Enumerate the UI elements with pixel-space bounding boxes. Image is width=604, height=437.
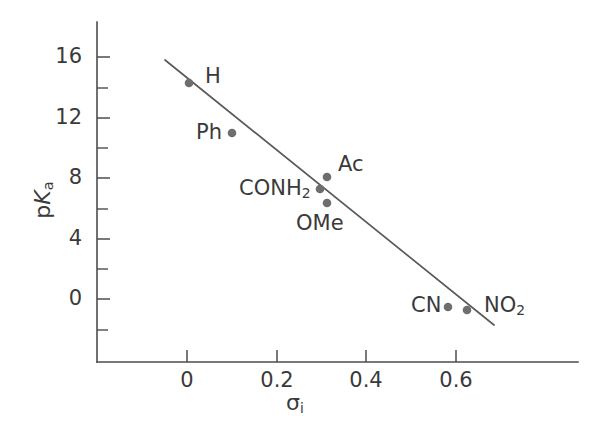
x-axis-title-i: i bbox=[300, 400, 304, 416]
data-point-ac bbox=[323, 173, 332, 182]
x-tick-label-0: 0 bbox=[157, 370, 217, 391]
data-point-h bbox=[185, 79, 194, 88]
data-point-ome bbox=[323, 199, 332, 208]
y-tick-label-0: 0 bbox=[40, 288, 82, 309]
y-axis-title: pKa bbox=[30, 181, 56, 218]
x-tick-label-0.2: 0.2 bbox=[247, 370, 307, 391]
point-label-conh2: CONH2 bbox=[239, 178, 311, 201]
point-label-no2-subscript: 2 bbox=[516, 302, 525, 318]
x-axis-title: σi bbox=[286, 392, 304, 416]
data-point-cn bbox=[444, 303, 453, 312]
point-label-conh2-text: CONH bbox=[239, 176, 302, 200]
point-label-ph: Ph bbox=[196, 122, 222, 143]
point-label-conh2-subscript: 2 bbox=[302, 185, 311, 201]
point-label-ome: OMe bbox=[296, 213, 344, 234]
x-tick-label-0.6: 0.6 bbox=[426, 370, 486, 391]
y-axis-title-a: a bbox=[40, 181, 56, 190]
y-tick-label-16: 16 bbox=[40, 46, 82, 67]
point-label-no2: NO2 bbox=[484, 295, 525, 318]
x-axis-title-sigma: σ bbox=[286, 390, 300, 415]
data-point-conh2 bbox=[316, 185, 325, 194]
y-axis-title-wrapper: pKa bbox=[23, 160, 63, 240]
data-point-ph bbox=[228, 129, 237, 138]
y-tick-label-12: 12 bbox=[40, 107, 82, 128]
data-point-no2 bbox=[463, 306, 472, 315]
point-label-h: H bbox=[205, 66, 221, 87]
trend-line bbox=[165, 60, 494, 325]
x-tick-label-0.4: 0.4 bbox=[336, 370, 396, 391]
y-axis-title-p: p bbox=[30, 205, 55, 219]
point-label-ac: Ac bbox=[338, 154, 364, 175]
y-axis-title-k: K bbox=[30, 190, 55, 204]
scatter-chart-figure: 16 12 8 4 0 0 0.2 0.4 0.6 H Ph Ac CONH2 … bbox=[0, 0, 604, 437]
point-label-cn: CN bbox=[411, 295, 441, 316]
point-label-no2-text: NO bbox=[484, 293, 516, 317]
